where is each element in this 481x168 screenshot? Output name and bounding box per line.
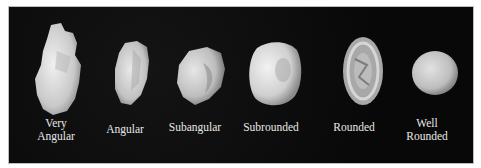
label-very-angular: Very Angular [37,117,75,143]
label-angular: Angular [106,123,144,136]
subangular-rock [175,45,227,107]
label-subangular: Subangular [169,121,221,134]
angular-rock [111,39,153,107]
very-angular-rock [31,21,93,117]
rock-roundness-photo: Very Angular Angular Subangular Subround… [8,6,474,164]
label-subrounded: Subrounded [243,121,299,134]
label-rounded: Rounded [333,121,375,134]
well-rounded-rock [410,49,460,97]
rounded-rock [341,35,385,107]
label-well-rounded: Well Rounded [406,117,448,143]
subrounded-rock [247,40,303,108]
